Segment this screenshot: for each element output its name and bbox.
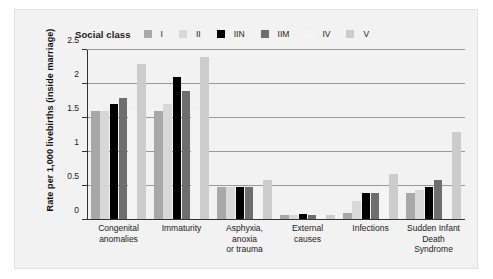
- legend-swatch-IV: [305, 30, 313, 38]
- x-axis-label: Immaturity: [150, 223, 213, 255]
- legend-entry-V: V: [346, 29, 369, 39]
- y-tick-label: 1: [74, 137, 79, 147]
- legend-swatch-I: [144, 30, 152, 38]
- legend-swatch-V: [346, 30, 354, 38]
- y-tick-label: 0: [74, 205, 79, 215]
- legend-label-I: I: [161, 29, 163, 39]
- legend-label-IIM: IIM: [278, 29, 290, 39]
- legend-entry-II: II: [179, 29, 201, 39]
- legend-label-V: V: [363, 29, 369, 39]
- legend-entry-IV: IV: [305, 29, 330, 39]
- legend-label-IV: IV: [322, 29, 330, 39]
- y-tick-label: 1.5: [67, 103, 79, 113]
- y-tick-label: 2: [74, 69, 79, 79]
- x-axis-label: Infections: [339, 223, 402, 255]
- x-axis-label: Externalcauses: [276, 223, 339, 255]
- legend-swatch-IIM: [261, 30, 269, 38]
- legend-title: Social class: [75, 29, 131, 40]
- chart-legend: Social class I II IIN IIM IV V: [75, 27, 385, 41]
- legend-label-II: II: [196, 29, 201, 39]
- x-axis-label: Sudden InfantDeathSyndrome: [402, 223, 465, 255]
- y-tick-label: 0.5: [67, 171, 79, 181]
- plot-frame: [87, 50, 465, 220]
- legend-entry-IIM: IIM: [261, 29, 290, 39]
- x-axis-label: Asphyxia,anoxiaor trauma: [213, 223, 276, 255]
- x-axis-label: Congenitalanomalies: [87, 223, 150, 255]
- y-axis-title: Rate per 1,000 livebirths (inside marria…: [45, 20, 55, 220]
- plot-area: 00.511.522.5: [87, 50, 465, 220]
- legend-label-IIN: IIN: [234, 29, 245, 39]
- y-tick-label: 2.5: [67, 35, 79, 45]
- legend-entry-I: I: [144, 29, 163, 39]
- legend-swatch-II: [179, 30, 187, 38]
- legend-swatch-IIN: [217, 30, 225, 38]
- legend-entry-IIN: IIN: [217, 29, 245, 39]
- x-axis-labels: CongenitalanomaliesImmaturityAsphyxia,an…: [87, 223, 465, 255]
- chart-figure: Social class I II IIN IIM IV V Rate per …: [14, 9, 478, 269]
